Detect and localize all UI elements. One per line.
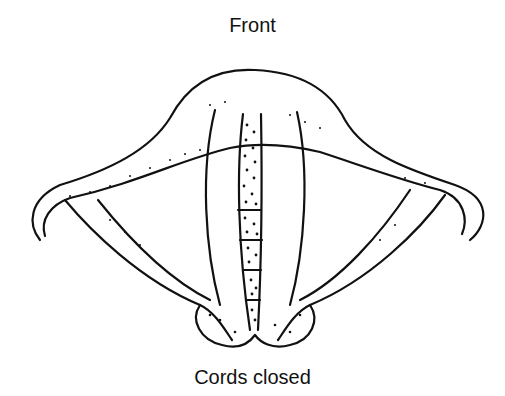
inner-lip-outline: [44, 145, 465, 236]
left-false-cord: [206, 110, 220, 305]
arytenoid-outline: [196, 305, 314, 347]
surface-stipple: [69, 101, 426, 333]
caption-label: Cords closed: [0, 366, 505, 389]
vocal-cords-diagram: [0, 0, 505, 396]
right-false-cord: [290, 112, 304, 305]
inner-right-fold: [300, 190, 410, 300]
right-true-cord: [258, 114, 262, 330]
epiglottis-outline: [33, 70, 484, 240]
